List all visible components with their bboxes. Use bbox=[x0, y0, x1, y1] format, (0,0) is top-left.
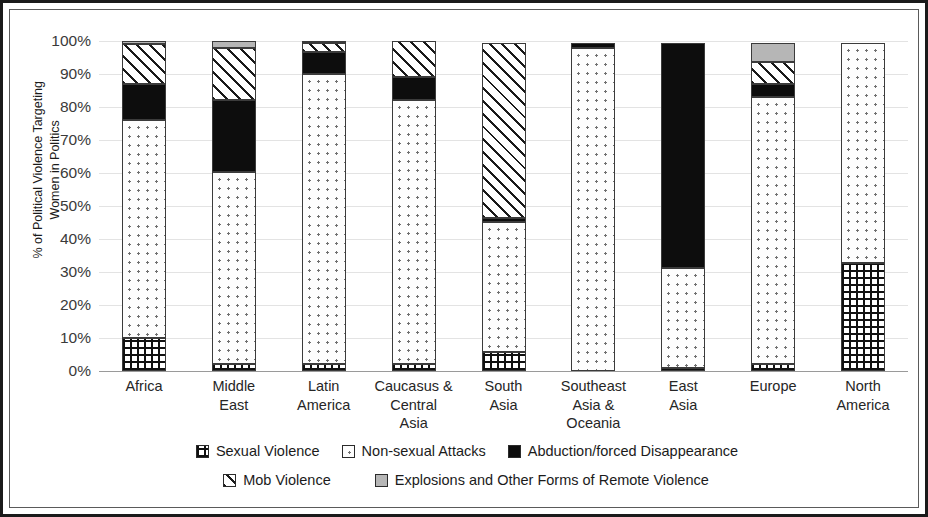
stacked-bar[interactable] bbox=[212, 41, 256, 371]
bar-column bbox=[751, 41, 795, 371]
y-axis-tick-label: 30% bbox=[27, 263, 91, 281]
bar-segment[interactable] bbox=[212, 172, 256, 364]
x-axis-tick-label: North America bbox=[818, 377, 908, 414]
bar-segment[interactable] bbox=[212, 41, 256, 48]
y-axis-tick-label: 10% bbox=[27, 329, 91, 347]
legend-swatch-icon bbox=[223, 474, 236, 487]
legend-swatch-icon bbox=[342, 445, 355, 458]
legend-row-1: Sexual ViolenceNon-sexual AttacksAbducti… bbox=[3, 443, 925, 459]
y-axis-tick-label: 80% bbox=[27, 98, 91, 116]
stacked-bar[interactable] bbox=[482, 41, 526, 371]
y-axis-tick-label: 90% bbox=[27, 65, 91, 83]
bar-segment[interactable] bbox=[302, 52, 346, 74]
bar-segment[interactable] bbox=[482, 43, 526, 218]
x-axis-tick-label: Europe bbox=[728, 377, 818, 396]
y-axis-tick-label: 50% bbox=[27, 197, 91, 215]
x-axis-tick-label: South Asia bbox=[459, 377, 549, 414]
bar-segment[interactable] bbox=[751, 84, 795, 97]
bar-segment[interactable] bbox=[122, 84, 166, 120]
bar-segment[interactable] bbox=[302, 43, 346, 52]
y-axis-tick-label: 40% bbox=[27, 230, 91, 248]
bar-segment[interactable] bbox=[212, 100, 256, 172]
bar-segment[interactable] bbox=[392, 100, 436, 364]
bar-segment[interactable] bbox=[751, 364, 795, 371]
bar-segment[interactable] bbox=[841, 263, 885, 371]
bar-column bbox=[841, 41, 885, 371]
y-axis-tick-label: 0% bbox=[27, 362, 91, 380]
y-axis-tick-label: 100% bbox=[27, 32, 91, 50]
bar-segment[interactable] bbox=[751, 43, 795, 63]
stacked-bar[interactable] bbox=[751, 41, 795, 371]
legend-row-2: Mob ViolenceExplosions and Other Forms o… bbox=[3, 472, 925, 488]
stacked-bar[interactable] bbox=[122, 41, 166, 371]
bar-column bbox=[212, 41, 256, 371]
bar-segment[interactable] bbox=[212, 48, 256, 101]
bar-column bbox=[661, 41, 705, 371]
stacked-bar[interactable] bbox=[302, 41, 346, 371]
x-axis-tick-label: Caucasus & Central Asia bbox=[369, 377, 459, 433]
chart-figure: % of Political Violence Targeting Women … bbox=[0, 0, 928, 517]
bar-segment[interactable] bbox=[661, 43, 705, 268]
x-axis-tick-label: Latin America bbox=[279, 377, 369, 414]
x-axis-labels: AfricaMiddle EastLatin AmericaCaucasus &… bbox=[99, 377, 908, 433]
y-axis-tick-label: 70% bbox=[27, 131, 91, 149]
bar-segment[interactable] bbox=[751, 62, 795, 83]
bar-segment[interactable] bbox=[751, 97, 795, 364]
legend-item-label: Mob Violence bbox=[243, 472, 331, 488]
x-axis-tick-label: Middle East bbox=[189, 377, 279, 414]
bar-segment[interactable] bbox=[122, 44, 166, 84]
bar-column bbox=[302, 41, 346, 371]
bar-segment[interactable] bbox=[302, 74, 346, 364]
bar-segment[interactable] bbox=[392, 41, 436, 77]
y-axis-tick-label: 60% bbox=[27, 164, 91, 182]
bar-segment[interactable] bbox=[571, 48, 615, 371]
bar-segment[interactable] bbox=[661, 268, 705, 368]
legend-item[interactable]: Sexual Violence bbox=[196, 443, 320, 459]
legend-item-label: Explosions and Other Forms of Remote Vio… bbox=[395, 472, 709, 488]
bar-segment[interactable] bbox=[302, 364, 346, 371]
legend-item-label: Abduction/forced Disappearance bbox=[528, 443, 738, 459]
bar-column bbox=[392, 41, 436, 371]
bar-column bbox=[571, 41, 615, 371]
legend-item[interactable]: Explosions and Other Forms of Remote Vio… bbox=[375, 472, 709, 488]
bar-segment[interactable] bbox=[482, 222, 526, 352]
stacked-bar[interactable] bbox=[392, 41, 436, 371]
bar-segment[interactable] bbox=[392, 77, 436, 100]
bar-column bbox=[482, 41, 526, 371]
stacked-bar[interactable] bbox=[571, 41, 615, 371]
bar-segment[interactable] bbox=[661, 368, 705, 371]
x-axis-tick-label: East Asia bbox=[638, 377, 728, 414]
bar-segment[interactable] bbox=[482, 352, 526, 371]
gridline bbox=[99, 371, 908, 372]
legend-item[interactable]: Mob Violence bbox=[223, 472, 331, 488]
x-axis-tick-label: Southeast Asia & Oceania bbox=[548, 377, 638, 433]
legend-item-label: Non-sexual Attacks bbox=[362, 443, 486, 459]
y-axis-tick-label: 20% bbox=[27, 296, 91, 314]
x-axis-tick-label: Africa bbox=[99, 377, 189, 396]
bar-segment[interactable] bbox=[122, 41, 166, 44]
bar-segment[interactable] bbox=[302, 41, 346, 43]
bar-segment[interactable] bbox=[392, 364, 436, 371]
bar-segment[interactable] bbox=[571, 43, 615, 48]
legend-item-label: Sexual Violence bbox=[216, 443, 320, 459]
bar-segment[interactable] bbox=[122, 338, 166, 371]
stacked-bar[interactable] bbox=[841, 41, 885, 371]
legend-item[interactable]: Non-sexual Attacks bbox=[342, 443, 486, 459]
legend-item[interactable]: Abduction/forced Disappearance bbox=[508, 443, 738, 459]
legend-swatch-icon bbox=[375, 474, 388, 487]
bar-column bbox=[122, 41, 166, 371]
legend-swatch-icon bbox=[508, 445, 521, 458]
bar-segment[interactable] bbox=[482, 218, 526, 222]
plot-area: 0%10%20%30%40%50%60%70%80%90%100% bbox=[99, 41, 908, 371]
chart-legend: Sexual ViolenceNon-sexual AttacksAbducti… bbox=[3, 443, 925, 488]
bar-segment[interactable] bbox=[212, 364, 256, 371]
bar-segment[interactable] bbox=[122, 120, 166, 338]
legend-swatch-icon bbox=[196, 445, 209, 458]
stacked-bar[interactable] bbox=[661, 41, 705, 371]
bar-segment[interactable] bbox=[841, 43, 885, 263]
